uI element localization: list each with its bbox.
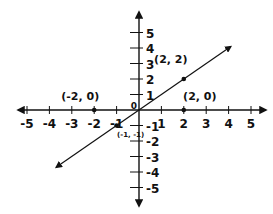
x-tick-label: 5 bbox=[247, 117, 255, 131]
data-point bbox=[114, 123, 119, 128]
x-tick-label: 2 bbox=[180, 117, 188, 131]
y-tick-label: 5 bbox=[146, 27, 154, 41]
origin-label: 0 bbox=[131, 101, 137, 111]
y-tick-label: 4 bbox=[146, 42, 154, 56]
x-tick-label: -2 bbox=[88, 117, 101, 131]
y-tick-label: 2 bbox=[146, 73, 154, 87]
data-point bbox=[92, 108, 97, 113]
x-tick-label: -3 bbox=[65, 117, 78, 131]
y-tick-label: -1 bbox=[146, 120, 159, 134]
point-label: (2, 0) bbox=[183, 90, 216, 103]
x-tick-label: -5 bbox=[20, 117, 33, 131]
point-label: (2, 2) bbox=[154, 53, 187, 66]
data-point bbox=[182, 108, 187, 113]
line-series bbox=[56, 46, 231, 167]
point-label: (-1, -1) bbox=[117, 131, 144, 139]
y-tick-label: -4 bbox=[146, 166, 159, 180]
point-label: (-2, 0) bbox=[61, 90, 99, 103]
y-tick-label: -3 bbox=[146, 151, 159, 165]
y-tick-label: 3 bbox=[146, 58, 154, 72]
x-tick-label: 4 bbox=[224, 117, 232, 131]
coordinate-plane-chart: -5-4-3-2-11234554321-1-2-3-4-50(-2, 0)(2… bbox=[0, 0, 273, 214]
y-tick-label: -5 bbox=[146, 182, 159, 196]
plot-area: -5-4-3-2-11234554321-1-2-3-4-50(-2, 0)(2… bbox=[0, 0, 273, 214]
data-point bbox=[182, 77, 187, 82]
y-tick-label: -2 bbox=[146, 135, 159, 149]
x-tick-label: 3 bbox=[202, 117, 210, 131]
x-tick-label: -4 bbox=[43, 117, 56, 131]
